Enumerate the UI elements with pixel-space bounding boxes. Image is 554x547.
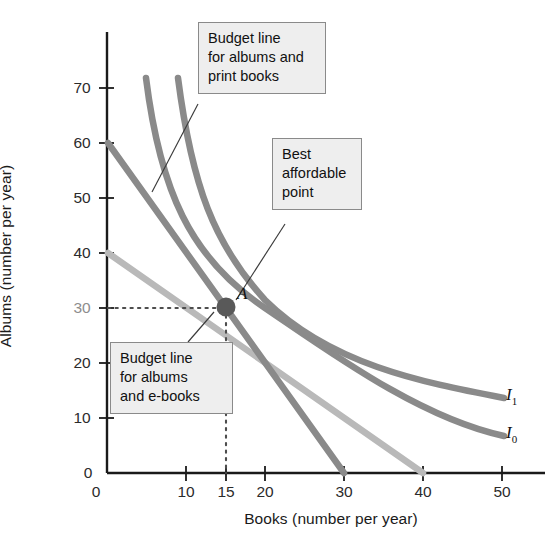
x-axis-title: Books (number per year) [244, 510, 418, 528]
y-tick-label-0: 0 [84, 464, 93, 482]
y-tick-label-50: 50 [73, 189, 90, 207]
x-tick-label-20: 20 [256, 483, 273, 501]
curve-label-i0-subscript: 0 [512, 433, 518, 445]
x-tick-label-50: 50 [493, 483, 510, 501]
x-tick-label-40: 40 [414, 483, 431, 501]
curve-label-i0: I0 [506, 423, 517, 444]
x-tick-label-10: 10 [177, 483, 194, 501]
y-tick-label-30: 30 [73, 299, 90, 317]
y-tick-label-40: 40 [73, 244, 90, 262]
callout-best-affordable-point: Best affordable point [272, 138, 362, 210]
x-tick-label-15: 15 [217, 483, 234, 501]
curve-label-i1-subscript: 1 [512, 395, 518, 407]
point-label-a: A [237, 284, 247, 304]
x-tick-label-0: 0 [92, 483, 101, 501]
economics-budget-line-chart: Albums (number per year) Books (number p… [0, 0, 554, 547]
y-tick-label-20: 20 [73, 354, 90, 372]
y-tick-label-60: 60 [73, 134, 90, 152]
y-tick-label-10: 10 [73, 409, 90, 427]
curve-label-i1: I1 [506, 385, 517, 406]
x-tick-label-30: 30 [335, 483, 352, 501]
callout-budget-line-ebooks: Budget line for albums and e-books [110, 342, 233, 414]
callout-budget-line-print-books: Budget line for albums and print books [198, 22, 326, 94]
y-tick-label-70: 70 [73, 79, 90, 97]
best-affordable-point-marker [217, 298, 236, 317]
y-axis-title: Albums (number per year) [0, 165, 15, 347]
